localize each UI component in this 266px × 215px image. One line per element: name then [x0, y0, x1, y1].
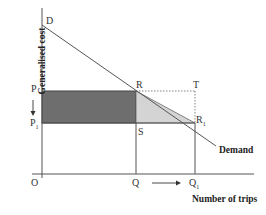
point-p1-label: P1: [30, 118, 39, 130]
consumer-surplus-triangle: [136, 91, 195, 123]
point-q1-label: Q1: [189, 178, 199, 190]
origin-label: O: [31, 178, 38, 188]
diagram-canvas: Generalised cost D P P1 R T R1 S Demand …: [0, 0, 266, 215]
point-t-label: T: [193, 80, 199, 90]
price-drop-arrow-icon: [31, 111, 36, 116]
point-p-label: P: [31, 84, 37, 94]
demand-curve: [42, 25, 216, 146]
point-s-label: S: [138, 127, 144, 137]
quantity-increase-arrow-icon: [176, 181, 181, 186]
demand-label: Demand: [219, 146, 253, 156]
point-d-label: D: [46, 16, 53, 26]
point-r-label: R: [136, 80, 143, 90]
point-q-label: Q: [132, 178, 139, 188]
r1-subscript: 1: [203, 121, 206, 127]
p1-subscript: 1: [36, 124, 39, 130]
point-r1-label: R1: [196, 115, 206, 127]
consumer-surplus-rectangle: [42, 91, 136, 123]
y-axis-label: Generalised cost: [37, 11, 47, 111]
q1-subscript: 1: [196, 184, 199, 190]
r1-letter: R: [196, 114, 203, 125]
x-axis-label: Number of trips: [192, 195, 257, 205]
